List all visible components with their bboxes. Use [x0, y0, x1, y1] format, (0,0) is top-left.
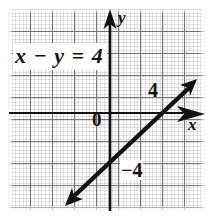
equation-label: x − y = 4: [13, 43, 107, 70]
graph-figure: x − y = 4 y x 0 4 −4: [0, 0, 214, 219]
origin-label: 0: [92, 110, 102, 129]
tick-label-negative-4: −4: [120, 160, 143, 180]
plot-overlay: [0, 0, 214, 219]
tick-label-4: 4: [148, 80, 158, 100]
x-axis-label: x: [188, 116, 197, 133]
y-axis-label: y: [118, 9, 126, 26]
graph-line-x-minus-y-equals-4: [72, 86, 191, 198]
